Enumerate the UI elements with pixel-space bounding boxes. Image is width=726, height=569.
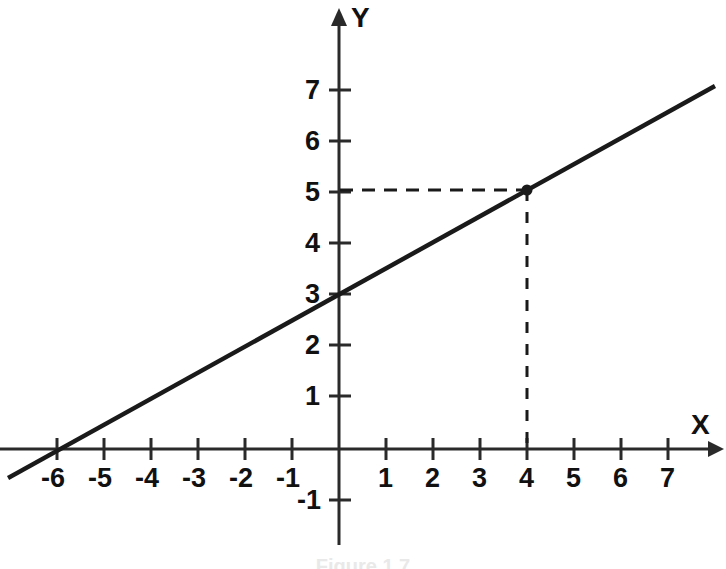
y-tick-label-neg1: -1	[297, 487, 321, 514]
x-axis-arrowhead	[708, 441, 724, 457]
data-point-marker	[522, 185, 533, 196]
y-axis-arrowhead	[331, 8, 347, 26]
y-tick-label-3: 3	[305, 281, 320, 308]
figure-canvas: Y X -6 -5 -4 -3 -2 -1 1 2 3 4 5 6 7 7 6 …	[0, 0, 726, 569]
y-axis	[329, 8, 351, 545]
y-tick-label-4: 4	[305, 230, 320, 257]
y-tick-label-6: 6	[305, 128, 320, 155]
y-tick-label-1: 1	[305, 383, 320, 410]
y-tick-label-2: 2	[305, 332, 320, 359]
x-tick-label-1: 1	[378, 465, 393, 492]
y-tick-label-7: 7	[305, 77, 320, 104]
x-tick-label-neg4: -4	[135, 465, 159, 492]
x-tick-label-neg3: -3	[182, 465, 206, 492]
y-tick-label-5: 5	[305, 179, 320, 206]
x-tick-label-neg6: -6	[41, 465, 65, 492]
guide-lines	[340, 190, 527, 449]
x-axis	[0, 438, 724, 460]
x-tick-label-4: 4	[519, 465, 534, 492]
x-tick-label-3: 3	[472, 465, 487, 492]
x-tick-label-5: 5	[566, 465, 581, 492]
x-axis-title: X	[691, 411, 710, 439]
x-tick-label-neg2: -2	[229, 465, 253, 492]
x-tick-label-7: 7	[660, 465, 675, 492]
x-tick-label-6: 6	[613, 465, 628, 492]
x-tick-label-neg5: -5	[88, 465, 112, 492]
figure-caption: Figure 1.7	[0, 556, 726, 569]
y-axis-title: Y	[351, 4, 370, 32]
function-line	[10, 87, 713, 477]
x-tick-label-2: 2	[425, 465, 440, 492]
